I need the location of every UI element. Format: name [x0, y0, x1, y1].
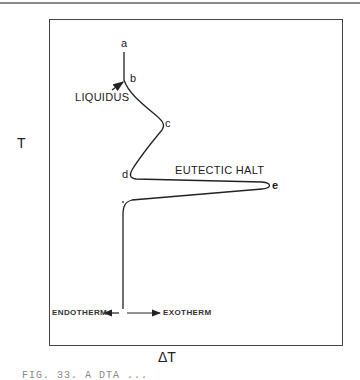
y-axis-label: T [17, 136, 26, 150]
curve-dot [122, 201, 124, 203]
point-label-d: d [122, 169, 128, 180]
exotherm-label: EXOTHERM [163, 309, 212, 317]
eutectic-halt-label: EUTECTIC HALT [175, 165, 264, 176]
endotherm-label: ENDOTHERM [52, 309, 107, 317]
dta-curve-plot [0, 0, 360, 380]
point-label-a: a [121, 38, 127, 49]
point-label-b: b [130, 73, 136, 84]
figure-caption: FIG. 33. A DTA ... [22, 370, 148, 380]
point-label-e: e [272, 180, 278, 191]
x-axis-label: ΔT [158, 350, 176, 364]
point-label-c: c [165, 118, 171, 129]
liquidus-arrow [112, 82, 123, 90]
liquidus-label: LIQUIDUS [75, 92, 129, 103]
dta-curve [123, 52, 270, 309]
